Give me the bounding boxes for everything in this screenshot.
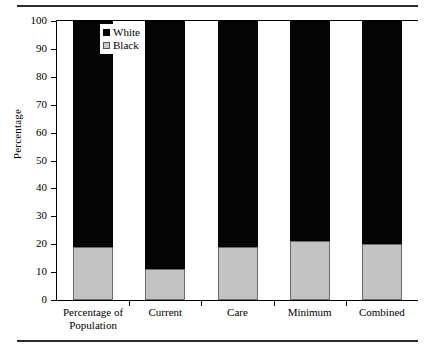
- y-axis-tick-label: 10: [13, 266, 47, 277]
- y-axis-tick-label: 50: [13, 155, 47, 166]
- y-axis-tick-label: 60: [13, 127, 47, 138]
- bar-segment-black-series: [145, 269, 185, 300]
- bar-segment-white-series: [218, 21, 258, 247]
- y-axis-tick-label: 20: [13, 238, 47, 249]
- bar-stack: [290, 21, 330, 300]
- x-axis-line: [56, 300, 418, 301]
- bar-segment-white-series: [362, 21, 402, 244]
- top-horizontal-rule: [17, 5, 418, 7]
- legend-label-white: White: [113, 27, 140, 38]
- y-axis-tick-label: 70: [13, 99, 47, 110]
- bar-stack: [218, 21, 258, 300]
- bar-segment-black-series: [362, 244, 402, 300]
- y-axis-tick-label: 80: [13, 71, 47, 82]
- y-axis-tick-label: 0: [13, 294, 47, 305]
- legend-swatch-black-icon: [103, 42, 110, 49]
- y-axis-tick: [51, 300, 57, 301]
- x-axis-tick-label-line: Population: [43, 319, 143, 332]
- bar-segment-black-series: [73, 247, 113, 300]
- bar-segment-black-series: [218, 247, 258, 300]
- bar-segment-white-series: [145, 21, 185, 269]
- bar-segment-black-series: [290, 241, 330, 300]
- bar-stack: [73, 21, 113, 300]
- bar-segment-white-series: [73, 21, 113, 247]
- stacked-bar-chart-figure: Percentage 0102030405060708090100 Percen…: [0, 0, 432, 350]
- plot-area: [57, 21, 418, 300]
- legend-item-white: White: [103, 26, 140, 39]
- y-axis-tick-label: 30: [13, 210, 47, 221]
- bar-stack: [145, 21, 185, 300]
- bar-stack: [362, 21, 402, 300]
- legend-item-black: Black: [103, 39, 140, 52]
- legend-label-black: Black: [113, 40, 139, 51]
- bottom-horizontal-rule: [17, 340, 418, 342]
- chart-legend: White Black: [100, 24, 144, 54]
- y-axis-tick-label: 90: [13, 43, 47, 54]
- y-axis-tick-label: 40: [13, 182, 47, 193]
- legend-swatch-white-icon: [103, 29, 110, 36]
- bar-segment-white-series: [290, 21, 330, 241]
- y-axis-tick-label: 100: [13, 15, 47, 26]
- x-axis-tick-label-line: Combined: [332, 306, 432, 319]
- x-axis-tick-label: Combined: [332, 306, 432, 319]
